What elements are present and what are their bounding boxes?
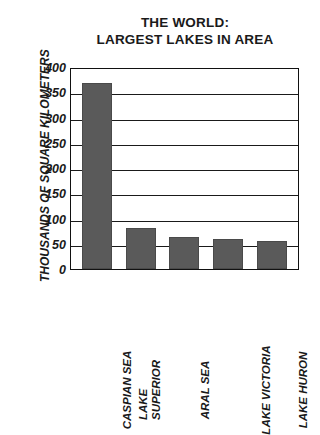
chart-title-line-2: LARGEST LAKES IN AREA (60, 31, 310, 48)
y-tick-label: 150 (26, 188, 66, 200)
x-tick-label-lake-superior: LAKE SUPERIOR (137, 360, 163, 420)
bar-series (71, 69, 298, 269)
bar-caspian-sea (82, 83, 112, 269)
x-label-slot: ARAL SEA (169, 272, 199, 392)
x-label-slot: LAKE HURON (258, 272, 288, 392)
plot-area (70, 68, 299, 270)
y-tick-label: 200 (26, 163, 66, 175)
chart-title-line-1: THE WORLD: (60, 14, 310, 31)
y-axis-tick-labels: 400 350 300 250 200 150 100 50 0 (26, 68, 66, 270)
x-tick-label-line: ARAL SEA (200, 361, 213, 420)
x-axis-tick-labels: CASPIAN SEA LAKE SUPERIOR ARAL SEA LAKE … (70, 272, 299, 392)
bar-lake-superior (126, 228, 156, 269)
y-tick-label: 100 (26, 214, 66, 226)
y-tick-label: 50 (26, 239, 66, 251)
x-tick-label-line: SUPERIOR (150, 360, 163, 420)
bar-lake-victoria (213, 239, 243, 269)
x-tick-label-lake-huron: LAKE HURON (297, 352, 310, 429)
y-tick-label: 300 (26, 113, 66, 125)
y-tick-label: 0 (26, 264, 66, 276)
y-tick-label: 250 (26, 138, 66, 150)
y-tick-label: 400 (26, 62, 66, 74)
bar-lake-huron (257, 241, 287, 269)
x-label-slot: LAKE VICTORIA (214, 272, 244, 392)
chart-title: THE WORLD: LARGEST LAKES IN AREA (60, 14, 310, 48)
x-tick-label-line: LAKE HURON (297, 352, 310, 429)
bar-aral-sea (169, 237, 199, 269)
x-tick-label-aral-sea: ARAL SEA (200, 361, 213, 420)
x-label-slot: CASPIAN SEA (81, 272, 111, 392)
y-tick-label: 350 (26, 87, 66, 99)
x-tick-label-line: LAKE (137, 360, 150, 420)
x-label-slot: LAKE SUPERIOR (125, 272, 155, 392)
